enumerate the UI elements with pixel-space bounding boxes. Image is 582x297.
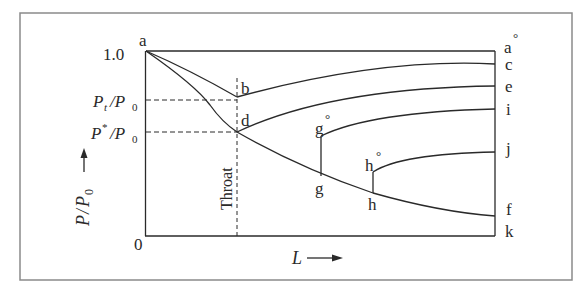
point-b: b: [241, 79, 250, 98]
y-axis-arrow-icon: [81, 148, 88, 172]
svg-text:*: *: [102, 121, 108, 133]
svg-text:/P: /P: [109, 124, 125, 143]
nozzle-pressure-diagram: 1.0 0 P t /P 0 P * /P 0 P / P 0 L Throat…: [0, 0, 582, 297]
tick-pstar-p0: P * /P 0: [90, 121, 138, 145]
curve-d-e: [237, 86, 495, 132]
point-e: e: [505, 77, 513, 96]
curve-g0-i: [321, 109, 495, 136]
point-a: a: [139, 31, 147, 50]
y-axis-title: P / P 0: [73, 189, 96, 227]
point-g: g: [315, 179, 324, 198]
tick-1-0: 1.0: [103, 45, 124, 64]
svg-text:0: 0: [82, 189, 96, 195]
point-d: d: [241, 111, 250, 130]
svg-text:P: P: [90, 124, 101, 143]
svg-text:/: /: [73, 207, 93, 215]
point-k: k: [505, 222, 514, 241]
curve-a-b: [146, 51, 237, 97]
point-h: h: [368, 195, 377, 214]
point-c: c: [505, 55, 513, 74]
x-axis-title: L: [291, 248, 302, 268]
point-g0-degree: °: [325, 111, 330, 126]
point-h0-degree: °: [376, 148, 381, 163]
point-j: j: [505, 139, 511, 158]
svg-text:0: 0: [132, 101, 138, 113]
point-g0: g: [315, 119, 324, 138]
svg-text:0: 0: [132, 133, 138, 145]
point-a0-degree: °: [513, 30, 518, 45]
throat-label: Throat: [218, 167, 235, 210]
x-axis-arrow-icon: [307, 255, 343, 262]
svg-text:P: P: [73, 196, 93, 208]
svg-text:t: t: [104, 101, 108, 113]
tick-0: 0: [134, 235, 143, 254]
svg-text:P: P: [92, 92, 103, 111]
curve-a-d: [146, 51, 237, 132]
tick-pt-p0: P t /P 0: [92, 92, 138, 113]
point-h0: h: [365, 156, 374, 175]
curve-h0-j: [373, 152, 495, 172]
point-f: f: [506, 200, 512, 219]
svg-text:/P: /P: [109, 92, 125, 111]
svg-text:P: P: [73, 215, 93, 227]
point-i: i: [506, 100, 511, 119]
curve-b-c: [237, 63, 495, 97]
